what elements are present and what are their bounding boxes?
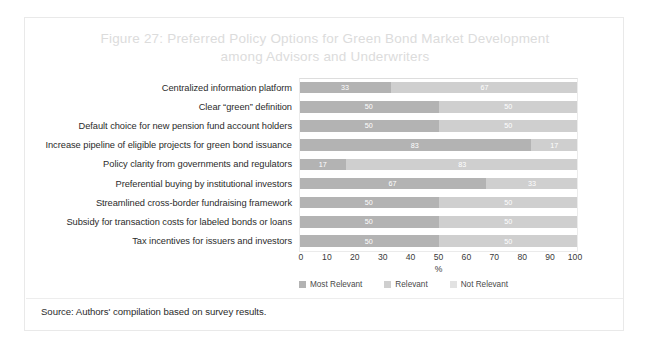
stacked-bar[interactable]: 3367: [299, 82, 578, 94]
bar-segment[interactable]: 17: [531, 139, 578, 151]
bar-track: 5050: [299, 193, 578, 212]
legend-item[interactable]: Not Relevant: [450, 280, 508, 289]
category-label: Clear “green” definition: [25, 102, 299, 112]
bar-value-label: 50: [365, 102, 373, 111]
category-label: Default choice for new pension fund acco…: [25, 121, 299, 131]
bar-value-label: 33: [341, 83, 349, 92]
bar-segment[interactable]: 50: [439, 235, 579, 247]
x-axis-unit-label: %: [299, 264, 578, 274]
category-label: Policy clarity from governments and regu…: [25, 159, 299, 169]
bar-segment[interactable]: 50: [439, 120, 579, 132]
bar-segment[interactable]: 33: [486, 178, 578, 190]
legend-swatch-icon: [450, 281, 457, 288]
chart-row: Centralized information platform3367: [25, 78, 625, 97]
bar-track: 5050: [299, 212, 578, 231]
chart-row: Tax incentives for issuers and investors…: [25, 232, 625, 251]
bar-track: 3367: [299, 78, 578, 97]
bar-value-label: 33: [528, 179, 536, 188]
bar-segment[interactable]: 17: [299, 159, 346, 171]
chart-title-line-2: among Advisors and Underwriters: [65, 48, 585, 66]
bar-value-label: 50: [504, 217, 512, 226]
bar-segment[interactable]: 50: [439, 101, 579, 113]
bar-segment[interactable]: 50: [439, 216, 579, 228]
bar-value-label: 17: [550, 141, 558, 150]
stacked-bar[interactable]: 5050: [299, 197, 578, 209]
legend-swatch-icon: [384, 281, 391, 288]
x-axis-tick-label: 60: [462, 252, 472, 262]
source-note: Source: Authors' compilation based on su…: [41, 306, 266, 317]
x-axis-tick-label: 70: [490, 252, 500, 262]
legend-item[interactable]: Relevant: [384, 280, 427, 289]
chart-legend: Most RelevantRelevantNot Relevant: [299, 280, 599, 289]
bar-value-label: 50: [504, 198, 512, 207]
bar-segment[interactable]: 33: [299, 82, 391, 94]
bar-value-label: 67: [481, 83, 489, 92]
chart-row: Default choice for new pension fund acco…: [25, 116, 625, 135]
bar-value-label: 67: [388, 179, 396, 188]
category-label: Centralized information platform: [25, 83, 299, 93]
chart-row: Streamlined cross-border fundraising fra…: [25, 193, 625, 212]
stacked-bar[interactable]: 6733: [299, 178, 578, 190]
source-divider: [26, 298, 623, 299]
stacked-bar[interactable]: 8317: [299, 139, 578, 151]
bar-value-label: 50: [504, 102, 512, 111]
chart-title-line-1: Figure 27: Preferred Policy Options for …: [65, 30, 585, 48]
bar-track: 5050: [299, 116, 578, 135]
bar-track: 6733: [299, 174, 578, 193]
bar-value-label: 50: [504, 237, 512, 246]
legend-label: Most Relevant: [310, 280, 362, 289]
chart-row: Clear “green” definition5050: [25, 97, 625, 116]
chart-row: Subsidy for transaction costs for labele…: [25, 212, 625, 231]
x-axis-tick-label: 100: [568, 252, 582, 262]
x-axis-tick-label: 80: [517, 252, 527, 262]
bar-value-label: 50: [365, 198, 373, 207]
bar-segment[interactable]: 83: [346, 159, 578, 171]
bar-track: 5050: [299, 232, 578, 251]
x-axis-tick-label: 0: [299, 252, 304, 262]
x-axis-tick-label: 50: [434, 252, 444, 262]
category-label: Increase pipeline of eligible projects f…: [25, 140, 299, 150]
chart-row: Increase pipeline of eligible projects f…: [25, 136, 625, 155]
category-label: Preferential buying by institutional inv…: [25, 179, 299, 189]
legend-label: Relevant: [395, 280, 427, 289]
category-label: Streamlined cross-border fundraising fra…: [25, 198, 299, 208]
legend-label: Not Relevant: [461, 280, 508, 289]
bar-value-label: 50: [504, 121, 512, 130]
x-axis-tick-label: 40: [406, 252, 416, 262]
stacked-bar[interactable]: 5050: [299, 235, 578, 247]
bar-segment[interactable]: 50: [299, 101, 439, 113]
legend-swatch-icon: [299, 281, 306, 288]
bar-value-label: 50: [365, 217, 373, 226]
legend-item[interactable]: Most Relevant: [299, 280, 362, 289]
category-label: Tax incentives for issuers and investors: [25, 236, 299, 246]
chart-title: Figure 27: Preferred Policy Options for …: [65, 30, 585, 66]
chart-plot-area: Centralized information platform3367Clea…: [25, 78, 625, 278]
x-axis-tick-label: 90: [545, 252, 555, 262]
bar-segment[interactable]: 83: [299, 139, 531, 151]
chart-row: Preferential buying by institutional inv…: [25, 174, 625, 193]
bar-segment[interactable]: 50: [299, 197, 439, 209]
stacked-bar[interactable]: 5050: [299, 120, 578, 132]
figure-card: Figure 27: Preferred Policy Options for …: [24, 17, 624, 331]
bar-track: 1783: [299, 155, 578, 174]
bar-track: 5050: [299, 97, 578, 116]
chart-row: Policy clarity from governments and regu…: [25, 155, 625, 174]
x-axis-tick-label: 30: [378, 252, 388, 262]
bar-segment[interactable]: 67: [299, 178, 486, 190]
category-label: Subsidy for transaction costs for labele…: [25, 217, 299, 227]
bar-value-label: 17: [319, 160, 327, 169]
bar-value-label: 50: [365, 121, 373, 130]
bar-value-label: 83: [458, 160, 466, 169]
bar-track: 8317: [299, 136, 578, 155]
bar-value-label: 50: [365, 237, 373, 246]
bar-segment[interactable]: 50: [299, 235, 439, 247]
bar-value-label: 83: [411, 141, 419, 150]
stacked-bar[interactable]: 1783: [299, 159, 578, 171]
bar-segment[interactable]: 67: [391, 82, 578, 94]
bar-segment[interactable]: 50: [439, 197, 579, 209]
bar-rows: Centralized information platform3367Clea…: [25, 78, 625, 251]
stacked-bar[interactable]: 5050: [299, 216, 578, 228]
bar-segment[interactable]: 50: [299, 120, 439, 132]
stacked-bar[interactable]: 5050: [299, 101, 578, 113]
bar-segment[interactable]: 50: [299, 216, 439, 228]
